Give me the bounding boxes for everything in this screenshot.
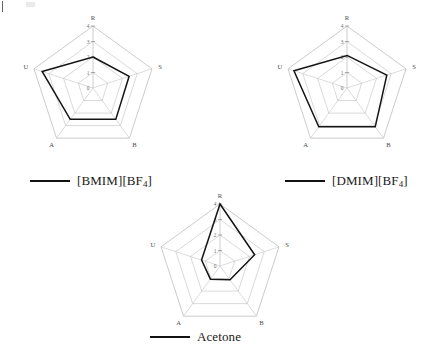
axis-label-r: R bbox=[345, 14, 350, 21]
radar-chart-bmim: 01234RSBAU bbox=[8, 8, 178, 170]
axis-spoke bbox=[220, 247, 279, 266]
legend-label-acetone: Acetone bbox=[197, 330, 241, 343]
legend-acetone: Acetone bbox=[150, 330, 241, 343]
radar-svg: 01234RSBAU bbox=[8, 8, 178, 170]
radial-tick-label: 0 bbox=[87, 85, 90, 91]
legend-bmim: [BMIM][BF4] bbox=[30, 174, 152, 187]
radial-tick-label: 3 bbox=[341, 39, 344, 45]
axis-label-r: R bbox=[218, 192, 223, 199]
radar-svg: 01234RSBAU bbox=[135, 186, 305, 348]
axis-label-a: A bbox=[49, 141, 54, 148]
radial-tick-label: 0 bbox=[341, 85, 344, 91]
radial-tick-label: 4 bbox=[214, 201, 217, 207]
radar-figure: 01234RSBAU [BMIM][BF4] 01234RSBAU [DMIM]… bbox=[0, 0, 438, 361]
axis-label-u: U bbox=[278, 63, 283, 70]
scan-artifact bbox=[26, 2, 35, 7]
radial-tick-label: 1 bbox=[341, 70, 344, 76]
axis-spoke bbox=[93, 69, 152, 88]
radial-tick-label: 2 bbox=[214, 232, 217, 238]
axis-label-s: S bbox=[285, 241, 289, 248]
series-polygon bbox=[294, 55, 387, 126]
radial-tick-label: 0 bbox=[214, 263, 217, 269]
legend-line-acetone bbox=[150, 336, 190, 338]
axis-label-b: B bbox=[132, 141, 137, 148]
axis-spoke bbox=[347, 69, 406, 88]
series-polygon bbox=[42, 57, 129, 119]
radar-svg: 01234RSBAU bbox=[262, 8, 432, 170]
radial-tick-label: 4 bbox=[87, 23, 90, 29]
radar-chart-dmim: 01234RSBAU bbox=[262, 8, 432, 170]
radial-tick-label: 1 bbox=[214, 248, 217, 254]
axis-label-b: B bbox=[259, 319, 264, 326]
axis-label-r: R bbox=[91, 14, 96, 21]
legend-line-bmim bbox=[30, 180, 70, 182]
axis-label-s: S bbox=[158, 63, 162, 70]
series-polygon bbox=[202, 204, 255, 280]
axis-label-u: U bbox=[151, 241, 156, 248]
radial-tick-label: 3 bbox=[87, 39, 90, 45]
radar-chart-acetone: 01234RSBAU bbox=[135, 186, 305, 348]
radial-tick-label: 1 bbox=[87, 70, 90, 76]
page-edge-mark bbox=[2, 1, 3, 12]
axis-label-u: U bbox=[24, 63, 29, 70]
axis-label-a: A bbox=[303, 141, 308, 148]
axis-label-a: A bbox=[176, 319, 181, 326]
radial-tick-label: 4 bbox=[341, 23, 344, 29]
legend-label-dmim: [DMIM][BF4] bbox=[332, 174, 408, 187]
axis-label-s: S bbox=[412, 63, 416, 70]
axis-spoke bbox=[161, 247, 220, 266]
legend-line-dmim bbox=[285, 180, 325, 182]
axis-label-b: B bbox=[386, 141, 391, 148]
